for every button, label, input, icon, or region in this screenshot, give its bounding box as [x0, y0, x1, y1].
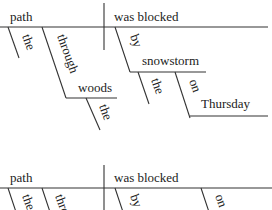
modifier-word-the-woods: the: [96, 102, 116, 122]
modifier-line-the-woods: [86, 98, 100, 130]
preposition-line-on: [175, 72, 190, 118]
modifier-word-the: the: [19, 32, 39, 52]
preposition-word-by: by: [127, 192, 146, 210]
modifier-word-the: the: [19, 192, 39, 210]
preposition-line-by: [115, 188, 123, 210]
preposition-word-through: through: [52, 192, 80, 210]
subject-word: path: [10, 9, 33, 24]
object-word-thursday: Thursday: [201, 96, 251, 111]
preposition-line-by: [115, 27, 130, 72]
preposition-word-on: on: [212, 192, 231, 210]
modifier-line-the: [8, 27, 19, 58]
diagram-full: path was blocked the through woods the b…: [0, 3, 268, 130]
subject-word: path: [10, 170, 33, 185]
modifier-word-the-snowstorm: the: [148, 76, 168, 96]
preposition-word-through: through: [54, 32, 82, 76]
object-word-snowstorm: snowstorm: [142, 53, 199, 68]
modifier-line-the-snowstorm: [138, 72, 149, 104]
diagram-partial: path was blocked the through by on: [0, 165, 272, 210]
preposition-word-by: by: [127, 32, 146, 50]
preposition-word-on: on: [186, 77, 205, 95]
predicate-word: was blocked: [114, 9, 179, 24]
modifier-line-the: [8, 188, 16, 210]
object-word-woods: woods: [78, 80, 112, 95]
predicate-word: was blocked: [114, 170, 179, 185]
sentence-diagrams: path was blocked the through woods the b…: [0, 0, 272, 210]
preposition-line-on: [201, 188, 209, 210]
preposition-line-through: [42, 188, 50, 210]
